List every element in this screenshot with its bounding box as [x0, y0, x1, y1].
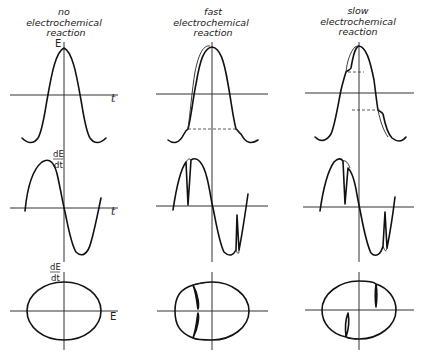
- plot-dedt-vs-e-slow-reaction: [305, 272, 414, 350]
- plot-dedt-vs-t-fast-reaction: [156, 152, 268, 262]
- column-title-fast-reaction: fast electrochemical reaction: [173, 6, 249, 38]
- column-title-no-reaction: no electrochemical reaction: [26, 6, 102, 38]
- dedt-label-numerator: dE: [53, 149, 64, 159]
- plot-dedt-vs-t-no-reaction: dE dt t: [10, 149, 118, 262]
- plot-e-vs-t-no-reaction: E t: [10, 38, 118, 152]
- column-title-slow-reaction: slow electrochemical reaction: [320, 5, 396, 37]
- derivative-curve: [173, 159, 248, 255]
- svg-text:reaction: reaction: [194, 27, 233, 38]
- t-axis-label: t: [111, 205, 116, 218]
- electrochemical-oscillogram-diagram: no electrochemical reaction fast electro…: [0, 0, 423, 355]
- plot-e-vs-t-slow-reaction: [305, 42, 414, 152]
- plot-dedt-vs-e-fast-reaction: [157, 272, 268, 350]
- t-axis-label: t: [111, 92, 116, 105]
- svg-text:fast: fast: [204, 6, 223, 17]
- reference-curve-right: [236, 129, 244, 138]
- svg-text:slow: slow: [347, 5, 368, 16]
- plot-e-vs-t-fast-reaction: [156, 42, 268, 152]
- dedt-label-numerator: dE: [50, 262, 61, 272]
- e-axis-label: E: [110, 311, 116, 322]
- reference-curve-lower: [236, 250, 239, 253]
- plot-dedt-vs-e-no-reaction: dE dt E: [10, 262, 118, 350]
- potential-curve: [168, 47, 258, 142]
- svg-text:reaction: reaction: [47, 27, 86, 38]
- svg-text:reaction: reaction: [339, 26, 378, 37]
- plot-dedt-vs-t-slow-reaction: [303, 152, 414, 262]
- svg-text:no: no: [58, 6, 70, 17]
- e-axis-label: E: [55, 38, 61, 49]
